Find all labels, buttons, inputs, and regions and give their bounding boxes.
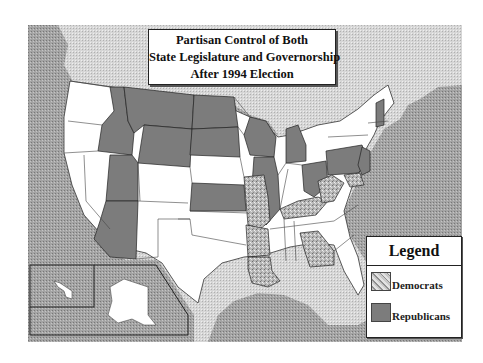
legend: Legend Democrats Republicans: [366, 236, 462, 338]
map-title: Partisan Control of Both State Legislatu…: [148, 29, 336, 85]
republicans-swatch: [371, 303, 391, 322]
democrats-swatch: [371, 272, 391, 291]
title-line-1: Partisan Control of Both: [149, 32, 335, 49]
legend-label-democrats: Democrats: [392, 279, 443, 291]
state-arkansas: [246, 225, 270, 257]
state-wyoming: [138, 125, 192, 167]
state-utah: [106, 155, 138, 201]
state-new-hampshire: [376, 99, 384, 127]
legend-item-republicans: Republicans: [371, 303, 450, 322]
legend-item-democrats: Democrats: [371, 272, 443, 291]
state-kansas: [190, 183, 246, 211]
state-north-dakota: [192, 95, 238, 129]
legend-heading: Legend: [367, 237, 461, 266]
title-line-2: State Legislature and Governorship: [149, 49, 335, 66]
state-south-dakota: [190, 127, 240, 157]
title-line-3: After 1994 Election: [149, 66, 335, 83]
legend-label-republicans: Republicans: [392, 310, 450, 322]
